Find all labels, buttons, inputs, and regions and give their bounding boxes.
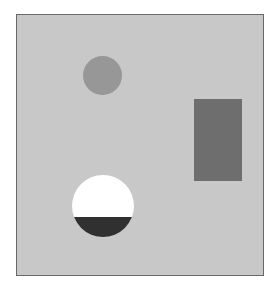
- half-filled-circle: [72, 175, 134, 237]
- dark-rectangle: [194, 99, 242, 181]
- canvas-panel: [16, 14, 264, 276]
- circle-dark-lower-half: [72, 217, 134, 237]
- small-gray-circle: [83, 56, 122, 95]
